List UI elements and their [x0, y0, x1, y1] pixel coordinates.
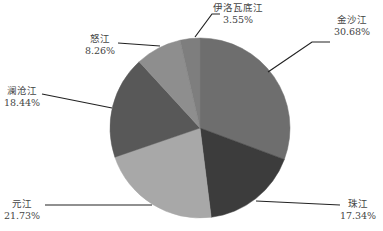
slice-name: 怒江 [85, 33, 115, 45]
slice-name: 伊洛瓦底江 [213, 2, 263, 14]
pie-slices [110, 38, 290, 218]
leader-line [42, 94, 112, 108]
slice-percent: 18.44% [4, 97, 40, 109]
leader-line [256, 201, 340, 205]
slice-name: 澜沧江 [4, 85, 40, 97]
pie-chart [0, 0, 383, 231]
slice-name: 元江 [4, 198, 40, 210]
slice-label-irrawaddy: 伊洛瓦底江3.55% [213, 2, 263, 26]
leader-line [268, 42, 330, 72]
slice-label-yuanjiang: 元江21.73% [4, 198, 40, 222]
slice-label-zhujiang: 珠江17.34% [340, 198, 376, 222]
slice-percent: 8.26% [85, 45, 115, 57]
slice-label-nujiang: 怒江8.26% [85, 33, 115, 57]
slice-percent: 21.73% [4, 210, 40, 222]
slice-label-lancangjiang: 澜沧江18.44% [4, 85, 40, 109]
slice-label-jinshajiang: 金沙江30.68% [334, 14, 370, 38]
slice-percent: 30.68% [334, 26, 370, 38]
slice-name: 金沙江 [334, 14, 370, 26]
slice-name: 珠江 [340, 198, 376, 210]
slice-percent: 3.55% [213, 14, 263, 26]
slice-percent: 17.34% [340, 210, 376, 222]
leader-line [118, 43, 160, 46]
